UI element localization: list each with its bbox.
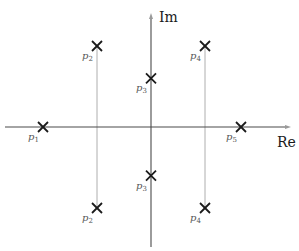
pole-p3_lower: p3 [136, 171, 156, 193]
imaginary-axis-label: Im [159, 9, 178, 25]
poles: p1p2p2p3p3p4p4p5 [28, 41, 246, 225]
pole-label: p1 [28, 131, 39, 144]
pole-label: p2 [82, 50, 93, 63]
pole-p2_lower: p2 [82, 203, 102, 225]
pole-label: p5 [226, 131, 237, 144]
pole-label: p4 [190, 50, 201, 63]
pole-p1: p1 [28, 122, 48, 144]
pole-p4_upper: p4 [190, 41, 210, 63]
pole-p2_upper: p2 [82, 41, 102, 63]
pole-label: p3 [136, 82, 147, 95]
pole-label: p3 [136, 180, 147, 193]
pole-p4_lower: p4 [190, 203, 210, 225]
real-axis-arrowhead [285, 125, 291, 129]
pole-label: p2 [82, 212, 93, 225]
pole-label: p4 [190, 212, 201, 225]
pole-p3_upper: p3 [136, 73, 156, 95]
real-axis-label: Re [277, 134, 296, 150]
pole-zero-diagram: Im Re p1p2p2p3p3p4p4p5 [0, 0, 299, 251]
pole-p5: p5 [226, 122, 246, 144]
imaginary-axis-arrowhead [149, 13, 153, 19]
